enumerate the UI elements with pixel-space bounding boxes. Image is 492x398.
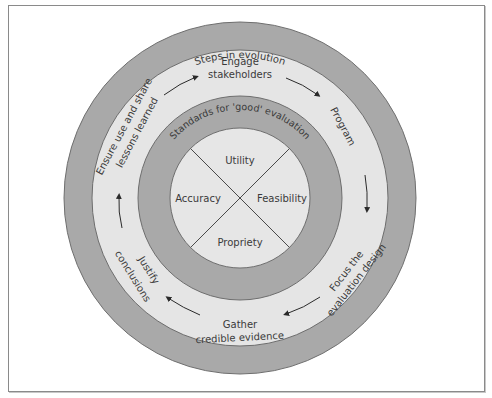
standard-utility: Utility [225, 155, 254, 166]
step-engage-line2: stakeholders [208, 69, 272, 80]
standard-accuracy: Accuracy [175, 193, 221, 204]
step-gather-line1: Gather [223, 319, 258, 330]
standard-propriety: Propriety [217, 237, 262, 248]
standard-feasibility: Feasibility [257, 193, 307, 204]
evaluation-cycle-diagram: Steps in evolution Steps in evolution St… [0, 0, 492, 398]
step-engage-line1: Engage [221, 56, 259, 67]
